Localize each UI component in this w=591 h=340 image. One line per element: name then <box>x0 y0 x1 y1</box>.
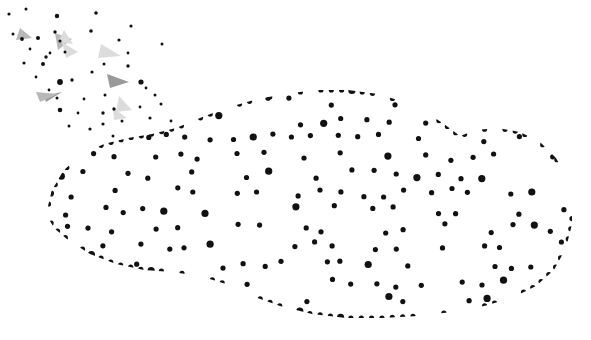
particle-dot <box>138 79 143 84</box>
particle-dot <box>139 106 142 109</box>
mesh-vertex <box>329 103 334 108</box>
particle-dot <box>35 76 38 79</box>
mesh-vertex <box>63 212 68 217</box>
mesh-vertex <box>208 137 213 142</box>
mesh-vertex <box>391 204 396 209</box>
particle-dot <box>94 11 98 15</box>
mesh-vertex <box>370 206 375 211</box>
mesh-vertex <box>296 193 301 198</box>
mesh-vertex <box>121 210 126 215</box>
mesh-vertex <box>195 157 200 162</box>
mesh-vertex <box>134 262 139 267</box>
mesh-vertex <box>489 230 494 235</box>
mesh-vertex <box>190 189 195 194</box>
mesh-vertex <box>481 139 486 144</box>
mesh-vertex <box>103 205 108 210</box>
mesh-vertex <box>509 266 514 271</box>
mesh-vertex <box>100 243 105 248</box>
mesh-vertex <box>531 222 538 229</box>
mesh-vertex <box>413 174 420 181</box>
mesh-vertex <box>111 154 116 159</box>
mesh-vertex <box>330 277 335 282</box>
mesh-vertex <box>338 116 343 121</box>
mesh-vertex <box>381 194 386 199</box>
mesh-vertex <box>312 239 317 244</box>
mesh-vertex <box>508 191 513 196</box>
mesh-vertex <box>497 245 502 250</box>
mesh-vertex <box>286 96 291 101</box>
mesh-vertex <box>348 282 353 287</box>
mesh-vertex <box>510 222 515 227</box>
particle-dot <box>64 51 67 54</box>
mesh-vertex <box>416 136 421 141</box>
mesh-vertex <box>383 230 388 235</box>
particle-dot <box>88 127 91 130</box>
mesh-vertex <box>516 212 521 217</box>
mesh-vertex <box>440 245 445 250</box>
mesh-vertex <box>517 134 522 139</box>
mesh-vertex <box>69 194 74 199</box>
mesh-vertex <box>181 245 186 250</box>
mesh-vertex <box>278 259 283 264</box>
particle-dot <box>89 29 93 33</box>
particle-dot <box>90 70 93 73</box>
mesh-vertex <box>182 135 187 140</box>
mesh-vertex <box>113 188 118 193</box>
particle-dot <box>103 63 106 66</box>
mesh-vertex <box>338 150 343 155</box>
mesh-vertex <box>160 208 167 215</box>
particle-dot <box>101 111 104 114</box>
particle-dot <box>36 36 40 40</box>
particle-dot <box>25 8 28 11</box>
mesh-vertex <box>231 137 236 142</box>
mesh-vertex <box>385 293 392 300</box>
low-poly-car-illustration <box>0 0 591 340</box>
mesh-vertex <box>109 229 114 234</box>
mesh-vertex <box>292 203 299 210</box>
particle-dot <box>7 12 10 15</box>
mesh-vertex <box>175 225 180 230</box>
mesh-vertex <box>332 203 337 208</box>
mesh-vertex <box>548 229 553 234</box>
mesh-vertex <box>355 134 360 139</box>
mesh-vertex <box>561 207 566 212</box>
mesh-vertex <box>361 194 366 199</box>
mesh-vertex <box>125 171 130 176</box>
mesh-vertex <box>178 152 183 157</box>
mesh-vertex <box>400 299 405 304</box>
mesh-vertex <box>154 227 159 232</box>
mesh-vertex <box>528 264 533 269</box>
mesh-vertex <box>528 188 535 195</box>
artwork-canvas: Low Poly Polygonal Car Grayscale low-pol… <box>0 0 591 340</box>
mesh-vertex <box>301 155 306 160</box>
particle-dot <box>127 52 130 55</box>
background-rect <box>0 0 591 340</box>
particle-dot <box>22 61 25 64</box>
mesh-vertex <box>207 241 214 248</box>
particle-dot <box>112 135 115 138</box>
mesh-vertex <box>65 224 70 229</box>
mesh-vertex <box>189 169 194 174</box>
mesh-vertex <box>392 102 397 107</box>
mesh-vertex <box>304 299 309 304</box>
mesh-vertex <box>419 283 424 288</box>
particle-dot <box>126 64 129 67</box>
mesh-vertex <box>387 120 392 125</box>
mesh-vertex <box>241 261 246 266</box>
mesh-vertex <box>265 168 272 175</box>
mesh-vertex <box>254 189 259 194</box>
mesh-vertex <box>384 153 391 160</box>
mesh-vertex <box>215 112 222 119</box>
mesh-vertex <box>436 211 441 216</box>
mesh-vertex <box>330 243 335 248</box>
mesh-vertex <box>304 225 309 230</box>
particle-dot <box>29 48 32 51</box>
particle-dot <box>56 97 59 100</box>
mesh-vertex <box>167 247 172 252</box>
mesh-vertex <box>458 176 463 181</box>
mesh-vertex <box>337 259 342 264</box>
mesh-vertex <box>220 266 225 271</box>
mesh-vertex <box>164 132 169 137</box>
mesh-vertex <box>349 167 354 172</box>
mesh-vertex <box>338 189 343 194</box>
